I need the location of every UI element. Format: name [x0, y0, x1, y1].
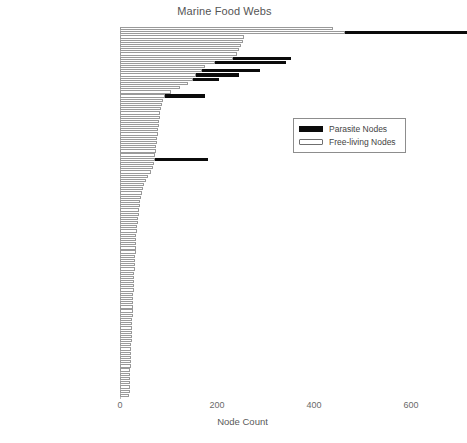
- bar-row: [120, 111, 440, 114]
- bar-row: [120, 94, 440, 97]
- bar-segment-free-living: [120, 103, 162, 106]
- bar-segment-free-living: [120, 145, 156, 148]
- bar-segment-free-living: [120, 132, 158, 135]
- bar-segment-free-living: [120, 309, 133, 312]
- bar-row: [120, 272, 440, 275]
- bar-segment-parasite: [202, 69, 259, 72]
- bar-row: [120, 200, 440, 203]
- bar-row: [120, 40, 440, 43]
- bar-row: [120, 179, 440, 182]
- bar-row: [120, 352, 440, 355]
- bar-segment-parasite: [233, 57, 291, 60]
- bar-segment-free-living: [120, 107, 161, 110]
- bar-segment-free-living: [120, 200, 140, 203]
- bar-segment-free-living: [120, 297, 133, 300]
- bar-segment-free-living: [120, 116, 160, 119]
- bar-row: [120, 103, 440, 106]
- bar-segment-free-living: [120, 339, 132, 342]
- bar-segment-free-living: [120, 82, 188, 85]
- bar-row: [120, 153, 440, 156]
- bar-segment-free-living: [120, 305, 133, 308]
- x-axis-tick-label: 400: [306, 400, 321, 410]
- y-axis-labels: Palmyra Sand FlatsEstero Punta BandaBahi…: [0, 27, 120, 398]
- bar-segment-free-living: [120, 221, 138, 224]
- bar-segment-free-living: [120, 326, 132, 329]
- bar-segment-free-living: [120, 229, 137, 232]
- bar-row: [120, 318, 440, 321]
- bar-segment-free-living: [120, 238, 136, 241]
- bar-segment-free-living: [120, 390, 130, 393]
- bar-row: [120, 385, 440, 388]
- bar-segment-free-living: [120, 204, 140, 207]
- bar-segment-free-living: [120, 57, 233, 60]
- bar-segment-free-living: [120, 293, 133, 296]
- bar-segment-free-living: [120, 52, 237, 55]
- bar-row: [120, 225, 440, 228]
- bar-row: [120, 183, 440, 186]
- bar-segment-free-living: [120, 284, 134, 287]
- bar-segment-free-living: [120, 381, 130, 384]
- bar-segment-free-living: [120, 373, 130, 376]
- bar-row: [120, 158, 440, 161]
- bar-row: [120, 356, 440, 359]
- bar-segment-free-living: [120, 61, 215, 64]
- bar-row: [120, 293, 440, 296]
- bar-segment-free-living: [120, 153, 155, 156]
- bar-row: [120, 301, 440, 304]
- bar-segment-free-living: [120, 385, 130, 388]
- bar-row: [120, 73, 440, 76]
- bar-segment-free-living: [120, 217, 138, 220]
- bar-row: [120, 221, 440, 224]
- bar-row: [120, 217, 440, 220]
- bar-row: [120, 326, 440, 329]
- bar-row: [120, 276, 440, 279]
- legend-swatch-free-living-icon: [299, 139, 323, 145]
- bar-row: [120, 335, 440, 338]
- bar-row: [120, 78, 440, 81]
- bar-row: [120, 204, 440, 207]
- bar-segment-free-living: [120, 35, 244, 38]
- x-axis-tick-label: 0: [117, 400, 122, 410]
- bar-segment-free-living: [120, 272, 134, 275]
- bar-row: [120, 27, 440, 30]
- bar-segment-free-living: [120, 187, 143, 190]
- bar-row: [120, 364, 440, 367]
- bar-row: [120, 52, 440, 55]
- bar-row: [120, 390, 440, 393]
- bar-segment-free-living: [120, 90, 171, 93]
- bar-row: [120, 31, 440, 34]
- bar-row: [120, 288, 440, 291]
- bar-segment-free-living: [120, 255, 135, 258]
- bar-segment-free-living: [120, 27, 333, 30]
- bar-segment-free-living: [120, 246, 136, 249]
- bar-segment-parasite: [165, 94, 206, 97]
- bar-segment-free-living: [120, 394, 129, 397]
- bar-row: [120, 309, 440, 312]
- bar-row: [120, 229, 440, 232]
- bar-segment-parasite: [215, 61, 286, 64]
- bar-row: [120, 48, 440, 51]
- bar-row: [120, 255, 440, 258]
- bar-segment-free-living: [120, 335, 132, 338]
- bar-row: [120, 339, 440, 342]
- bar-row: [120, 166, 440, 169]
- bar-row: [120, 162, 440, 165]
- plot-area: [120, 27, 440, 398]
- bar-row: [120, 90, 440, 93]
- bar-segment-free-living: [120, 331, 132, 334]
- bar-segment-free-living: [120, 225, 137, 228]
- bar-segment-free-living: [120, 360, 131, 363]
- bar-row: [120, 208, 440, 211]
- bar-row: [120, 44, 440, 47]
- bar-segment-free-living: [120, 267, 135, 270]
- bar-segment-free-living: [120, 364, 131, 367]
- bar-row: [120, 246, 440, 249]
- bar-row: [120, 35, 440, 38]
- bar-row: [120, 213, 440, 216]
- bar-row: [120, 170, 440, 173]
- bar-segment-free-living: [120, 40, 243, 43]
- bar-row: [120, 69, 440, 72]
- chart-legend: Parasite Nodes Free-living Nodes: [293, 118, 406, 153]
- bar-row: [120, 305, 440, 308]
